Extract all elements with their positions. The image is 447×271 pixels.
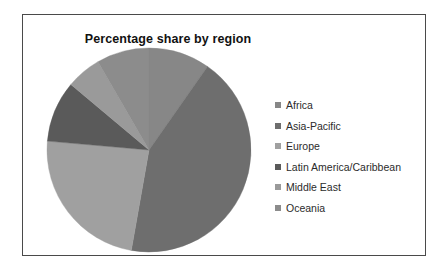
pie-chart bbox=[45, 45, 260, 260]
legend-item-label: Europe bbox=[286, 141, 320, 152]
chart-figure: Percentage share by region AfricaAsia-Pa… bbox=[0, 0, 447, 271]
legend-item-label: Asia-Pacific bbox=[286, 121, 341, 132]
legend-item: Africa bbox=[275, 95, 425, 116]
legend-swatch-icon bbox=[275, 143, 281, 149]
legend-swatch-icon bbox=[275, 123, 281, 129]
legend-swatch-icon bbox=[275, 102, 281, 108]
legend-swatch-icon bbox=[275, 205, 281, 211]
pie-chart-svg bbox=[45, 45, 260, 260]
legend-item-label: Latin America/Caribbean bbox=[286, 162, 401, 173]
chart-legend: AfricaAsia-PacificEuropeLatin America/Ca… bbox=[275, 95, 425, 218]
legend-item: Oceania bbox=[275, 198, 425, 219]
chart-title: Percentage share by region bbox=[23, 32, 313, 46]
legend-item: Europe bbox=[275, 136, 425, 157]
legend-item-label: Oceania bbox=[286, 203, 325, 214]
legend-swatch-icon bbox=[275, 184, 281, 190]
legend-item: Asia-Pacific bbox=[275, 116, 425, 137]
legend-item: Latin America/Caribbean bbox=[275, 157, 425, 178]
legend-swatch-icon bbox=[275, 164, 281, 170]
legend-item-label: Africa bbox=[286, 100, 313, 111]
legend-item: Middle East bbox=[275, 177, 425, 198]
legend-item-label: Middle East bbox=[286, 182, 341, 193]
figure-border: Percentage share by region AfricaAsia-Pa… bbox=[22, 14, 426, 256]
pie-slice bbox=[47, 141, 149, 250]
